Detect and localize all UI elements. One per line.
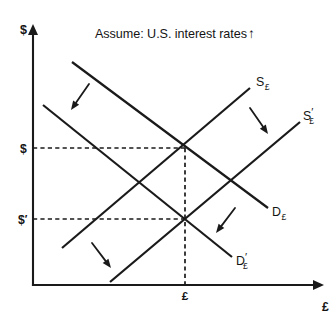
diagram-canvas: Assume: U.S. interest rates↑ $ £ $$′ £ S… (0, 0, 336, 318)
label-demand-curve-shifted: D′£ (236, 251, 248, 271)
price-tick-labels: $$′ (18, 142, 28, 227)
axis-group (28, 24, 324, 290)
supply-shift-arrow-upper-right (250, 108, 268, 134)
label-supply-curve-initial: S£ (256, 75, 270, 92)
shift-arrows-group (71, 84, 268, 268)
supply-shift-arrow-upper-right-head (260, 125, 268, 134)
demand-curve-initial (72, 62, 268, 208)
y-axis-arrowhead (28, 24, 38, 35)
demand-shift-arrow-upper-left (71, 84, 89, 110)
demand-shift-arrow-lower-right-shaft (221, 208, 235, 226)
quantity-tick-labels: £ (182, 289, 189, 303)
tick-label-price-new: $′ (18, 213, 28, 227)
labels-group: Assume: U.S. interest rates↑ $ £ $$′ £ S… (18, 23, 329, 314)
demand-shift-arrow-lower-right (216, 208, 235, 233)
demand-shift-arrow-upper-left-head (71, 101, 79, 110)
supply-curve-shifted (110, 122, 300, 282)
demand-shift-arrow-upper-left-shaft (76, 84, 89, 103)
supply-shift-arrow-upper-right-shaft (250, 108, 263, 127)
tick-label-quantity-equilibrium: £ (182, 289, 189, 303)
supply-shift-arrow-lower-left (92, 243, 111, 268)
title-up-arrow-icon: ↑ (248, 26, 255, 41)
tick-label-price-initial: $ (20, 142, 27, 156)
curve-labels: S£S′£D£D′£ (236, 75, 314, 271)
fx-market-diagram: Assume: U.S. interest rates↑ $ £ $$′ £ S… (0, 0, 336, 318)
x-axis-arrowhead (313, 280, 324, 290)
diagram-title: Assume: U.S. interest rates↑ (95, 26, 255, 41)
label-supply-curve-shifted: S′£ (303, 106, 314, 126)
supply-shift-arrow-lower-left-shaft (92, 243, 106, 261)
label-demand-curve-initial: D£ (272, 205, 286, 222)
x-axis-label: £ (322, 300, 329, 314)
y-axis-label: $ (20, 23, 27, 37)
